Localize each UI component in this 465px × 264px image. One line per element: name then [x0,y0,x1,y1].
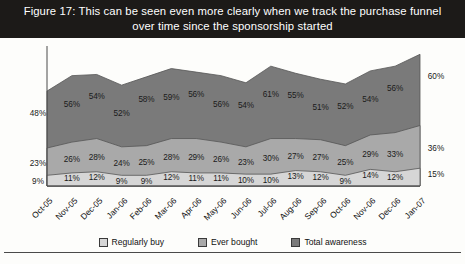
legend-item-total-awareness[interactable]: Total awareness [291,237,366,247]
legend-swatch-icon [99,238,108,247]
data-label: 56% [387,84,403,93]
data-label: 11% [213,174,228,183]
figure-title-band: Figure 17: This can be seen even more cl… [0,0,465,38]
data-label: 12% [312,173,328,182]
data-label: 61% [263,90,279,99]
data-label: 54% [89,92,105,101]
data-label: 26% [64,155,80,164]
data-label: 54% [362,94,378,103]
edge-label-left: 48% [30,109,46,118]
data-label: 29% [188,153,204,162]
data-label: 9% [340,176,352,185]
data-label: 56% [213,99,229,108]
data-label: 11% [64,174,79,183]
data-label: 23% [238,157,254,166]
legend-item-regularly-buy[interactable]: Regularly buy [99,237,165,247]
legend-label: Total awareness [304,237,366,247]
data-label: 11% [188,174,203,183]
data-label: 25% [138,157,154,166]
legend-swatch-icon [291,238,300,247]
data-label: 13% [288,172,304,181]
area-series-group [47,54,420,186]
data-label: 30% [263,153,279,162]
chart-plot-area: 9%11%12%9%9%12%11%11%10%10%13%12%9%14%12… [0,38,465,264]
data-label: 56% [188,90,204,99]
data-label: 29% [362,149,378,158]
data-label: 24% [114,158,130,167]
data-label: 28% [89,152,105,161]
data-label: 12% [89,173,105,182]
data-label: 9% [141,176,153,185]
data-label: 12% [163,173,179,182]
data-label: 9% [116,176,128,185]
edge-label-right: 60% [428,72,444,81]
data-label: 10% [263,175,279,184]
legend-swatch-icon [198,238,207,247]
data-label: 26% [213,155,229,164]
chart-legend: Regularly buyEver boughtTotal awareness [0,234,465,250]
data-label: 33% [387,149,403,158]
legend-label: Ever bought [211,237,257,247]
edge-label-right: 15% [428,169,444,178]
legend-label: Regularly buy [112,237,165,247]
data-label: 12% [387,173,403,182]
legend-item-ever-bought[interactable]: Ever bought [198,237,257,247]
data-label: 52% [114,109,130,118]
data-label: 59% [163,92,179,101]
data-label: 14% [362,170,378,179]
data-label: 56% [64,99,80,108]
data-label: 55% [288,91,304,100]
bottom-divider [4,252,461,253]
data-label: 27% [312,153,328,162]
data-label: 51% [312,103,328,112]
data-label: 25% [337,157,353,166]
edge-label-left: 23% [30,159,46,168]
edge-label-left: 9% [32,176,44,185]
page-title: Figure 17: This can be seen even more cl… [0,4,465,34]
edge-label-right: 36% [428,144,444,153]
figure-container: Figure 17: This can be seen even more cl… [0,0,465,264]
data-label: 28% [163,152,179,161]
data-label: 58% [138,94,154,103]
data-label: 10% [238,175,254,184]
data-label: 52% [337,101,353,110]
data-label: 54% [238,100,254,109]
data-label: 27% [288,152,304,161]
